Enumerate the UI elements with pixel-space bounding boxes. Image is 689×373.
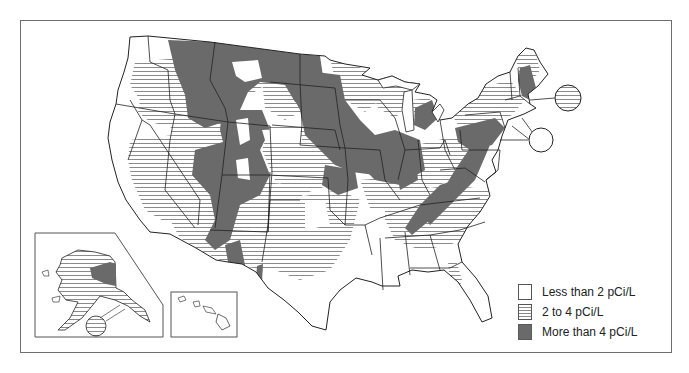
legend-label-mid: 2 to 4 pCi/L (542, 305, 603, 319)
callout-massachusetts-islands (530, 85, 581, 111)
contiguous-us (108, 36, 548, 330)
legend-label-low: Less than 2 pCi/L (542, 285, 635, 299)
hawaii-inset (171, 292, 237, 337)
legend-item-mid: 2 to 4 pCi/L (518, 303, 603, 321)
legend-swatch-low (518, 284, 532, 300)
legend-label-high: More than 4 pCi/L (542, 325, 637, 339)
legend-item-high: More than 4 pCi/L (518, 323, 637, 341)
legend-item-low: Less than 2 pCi/L (518, 283, 635, 301)
alaska-inset (35, 233, 163, 337)
legend-swatch-mid (518, 304, 532, 320)
legend: Less than 2 pCi/L 2 to 4 pCi/L More than… (518, 277, 668, 349)
callout-southern-new-england (500, 118, 553, 152)
legend-swatch-high (518, 324, 532, 340)
